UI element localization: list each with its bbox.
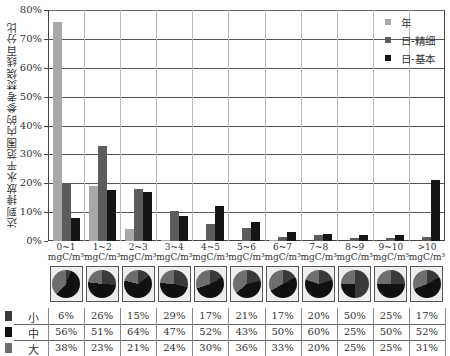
pie-chart-box (230, 266, 263, 302)
bar-day-basic (215, 206, 224, 241)
table-cell: 60% (300, 326, 338, 337)
bar-day-fine (278, 237, 287, 241)
bar-day-basic (143, 192, 152, 241)
bar-day-fine (422, 237, 431, 241)
table-row: 小6%26%15%29%17%21%17%20%50%25%17% (0, 308, 450, 324)
bar-day-basic (179, 216, 188, 241)
table-cell: 17% (191, 310, 229, 321)
x-category-label: 8~9mgC/m³ (336, 242, 374, 262)
table-cell: 6% (47, 310, 85, 321)
table-cell: 56% (47, 326, 85, 337)
y-gridline (48, 154, 445, 155)
legend-label-year: 年 (401, 15, 411, 30)
pie-chart (269, 270, 297, 298)
pie-chart-box (338, 266, 371, 302)
y-tick-mark (44, 68, 48, 69)
table-cell: 21% (228, 310, 266, 321)
table-cell: 23% (83, 342, 121, 353)
bar-year (269, 240, 278, 241)
bar-day-fine (134, 189, 143, 241)
y-gridline (48, 68, 445, 69)
pie-chart (88, 270, 116, 298)
y-gridline (48, 183, 445, 184)
x-gridline (84, 10, 85, 241)
table-column-divider (192, 308, 193, 356)
bar-day-fine (242, 228, 251, 241)
x-category-label: 7~8mgC/m³ (300, 242, 338, 262)
bar-day-basic (251, 222, 260, 241)
x-gridline (373, 10, 374, 241)
pie-chart (52, 270, 80, 298)
pie-chart-box (374, 266, 407, 302)
y-tick-label: 0% (12, 235, 42, 246)
pie-chart (305, 270, 333, 298)
table-cell: 25% (336, 326, 374, 337)
pie-chart-box (122, 266, 155, 302)
table-row: 大38%23%21%24%30%36%33%20%25%25%31% (0, 340, 450, 356)
y-tick-label: 60% (12, 62, 42, 73)
pie-chart (233, 270, 261, 298)
y-tick-mark (44, 97, 48, 98)
legend-label-day-basic: 日-基本 (401, 51, 435, 66)
pie-chart (196, 270, 224, 298)
table-cell: 50% (336, 310, 374, 321)
x-category-label: >10mgC/m³ (408, 242, 446, 262)
y-tick-mark (44, 154, 48, 155)
plot-frame-top (48, 10, 445, 11)
pie-chart-box (158, 266, 191, 302)
size-label: 中 (28, 325, 39, 341)
bar-day-fine (170, 211, 179, 241)
pie-chart (413, 270, 441, 298)
size-distribution-table: 小6%26%15%29%17%21%17%20%50%25%17%中56%51%… (0, 308, 450, 356)
table-column-divider (445, 308, 446, 356)
pie-chart-box (410, 266, 443, 302)
size-swatch (5, 311, 12, 321)
x-gridline (301, 10, 302, 241)
pie-chart-box (302, 266, 335, 302)
x-category-label: 5~6mgC/m³ (228, 242, 266, 262)
legend-item-day-fine: 日-精细 (385, 31, 435, 49)
y-tick-label: 80% (12, 4, 42, 15)
y-gridline (48, 97, 445, 98)
pie-chart (124, 270, 152, 298)
x-gridline (156, 10, 157, 241)
table-row-divider (14, 324, 445, 325)
table-cell: 15% (119, 310, 157, 321)
table-cell: 25% (336, 342, 374, 353)
x-category-label: 9~10mgC/m³ (372, 242, 410, 262)
x-category-label: 2~3mgC/m³ (119, 242, 157, 262)
table-cell: 50% (372, 326, 410, 337)
table-cell: 52% (191, 326, 229, 337)
legend-item-year: 年 (385, 13, 435, 31)
x-category-label: 6~7mgC/m³ (264, 242, 302, 262)
pie-chart-box (86, 266, 119, 302)
x-gridline (228, 10, 229, 241)
x-gridline (265, 10, 266, 241)
x-gridline (120, 10, 121, 241)
table-cell: 25% (372, 342, 410, 353)
table-column-divider (120, 308, 121, 356)
bar-day-basic (431, 180, 440, 241)
size-label: 大 (28, 341, 39, 356)
table-cell: 24% (155, 342, 193, 353)
bar-day-fine (206, 224, 215, 241)
bar-year (125, 229, 134, 241)
pie-chart-box (50, 266, 83, 302)
table-column-divider (84, 308, 85, 356)
size-swatch (5, 327, 12, 337)
pie-chart-box (266, 266, 299, 302)
table-cell: 30% (191, 342, 229, 353)
table-cell: 17% (264, 310, 302, 321)
size-distribution-pies (48, 266, 445, 306)
legend-swatch-year (385, 19, 391, 25)
legend-swatch-day-fine (385, 37, 391, 43)
y-tick-label: 30% (12, 148, 42, 159)
x-category-label: 4~5mgC/m³ (191, 242, 229, 262)
table-cell: 29% (155, 310, 193, 321)
bar-day-basic (107, 190, 116, 241)
table-cell: 64% (119, 326, 157, 337)
table-cell: 33% (264, 342, 302, 353)
table-cell: 31% (408, 342, 446, 353)
table-column-divider (373, 308, 374, 356)
table-row: 中56%51%64%47%52%43%50%60%25%50%52% (0, 324, 450, 340)
